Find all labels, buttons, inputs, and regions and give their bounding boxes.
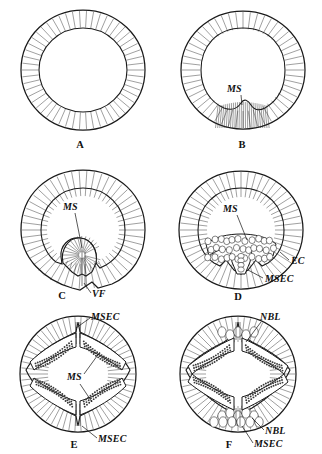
panel-b-drawing: MS B bbox=[166, 4, 321, 154]
panel-c: MS VF C bbox=[6, 164, 161, 314]
panel-a-drawing: A bbox=[6, 4, 161, 154]
embryo-section-b bbox=[181, 11, 305, 129]
panel-e-drawing: MSEC MS MSEC E bbox=[6, 308, 161, 454]
inner-cavity-outline bbox=[201, 28, 285, 110]
panel-d-drawing: MS EC MSEC D bbox=[166, 164, 321, 314]
panel-d: MS EC MSEC D bbox=[166, 164, 321, 314]
panel-f-drawing: NBL NBL MSEC F bbox=[166, 308, 321, 454]
inner-ectoderm-outline bbox=[39, 28, 127, 112]
embryo-section-a bbox=[21, 10, 145, 130]
label-ms-c: MS bbox=[62, 201, 78, 212]
panel-letter-e: E bbox=[70, 439, 77, 450]
panel-letter-d: D bbox=[234, 291, 242, 302]
figure-root: A MS B MS bbox=[0, 0, 322, 454]
label-ms-e: MS bbox=[66, 371, 82, 382]
label-ms-d: MS bbox=[222, 203, 238, 214]
label-vf-c: VF bbox=[92, 288, 106, 299]
panel-b: MS B bbox=[166, 4, 321, 154]
panel-c-drawing: MS VF C bbox=[6, 164, 161, 314]
panel-letter-b: B bbox=[238, 139, 245, 150]
label-nbl-f-bottom: NBL bbox=[264, 425, 286, 436]
panel-f: NBL NBL MSEC F bbox=[166, 308, 321, 454]
embryo-section-c bbox=[21, 170, 145, 290]
label-ms-b: MS bbox=[226, 83, 242, 94]
embryo-section-d bbox=[179, 171, 303, 289]
panel-letter-c: C bbox=[58, 290, 66, 301]
label-nbl-f-top: NBL bbox=[259, 311, 281, 322]
label-msec-f: MSEC bbox=[253, 438, 283, 449]
label-msec-e-bottom: MSEC bbox=[97, 433, 127, 444]
label-msec-e-top: MSEC bbox=[90, 311, 120, 322]
embryo-section-f bbox=[180, 316, 296, 432]
label-ec-d: EC bbox=[290, 255, 305, 266]
panel-letter-a: A bbox=[76, 139, 84, 150]
panel-e: MSEC MS MSEC E bbox=[6, 308, 161, 454]
panel-letter-f: F bbox=[226, 439, 232, 450]
panel-a: A bbox=[6, 4, 161, 154]
label-msec-d: MSEC bbox=[264, 273, 294, 284]
